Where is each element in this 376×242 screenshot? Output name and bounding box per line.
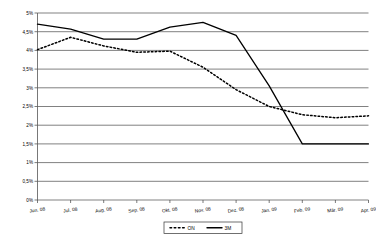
y-tick-label: 5% [26, 11, 33, 16]
y-tick-label: 2,5% [23, 104, 33, 109]
y-tick-label: 1,5% [23, 142, 33, 147]
y-tick-label: 0,5% [23, 179, 33, 184]
y-tick-label: 1% [26, 160, 33, 165]
y-tick-label: 4% [26, 48, 33, 53]
chart-background [0, 0, 376, 242]
y-tick-label: 4,5% [23, 30, 33, 35]
chart-svg: 0%0,5%1%1,5%2%2,5%3%3,5%4%4,5%5% Jun. 08… [0, 0, 376, 242]
line-chart: 0%0,5%1%1,5%2%2,5%3%3,5%4%4,5%5% Jun. 08… [0, 0, 376, 242]
y-tick-label: 3,5% [23, 67, 33, 72]
chart-legend: ON3M [164, 222, 242, 234]
legend-label-on: ON [188, 226, 196, 231]
y-tick-label: 3% [26, 86, 33, 91]
legend-label-3m: 3M [225, 226, 232, 231]
y-tick-label: 2% [26, 123, 33, 128]
y-tick-label: 0% [26, 198, 33, 203]
